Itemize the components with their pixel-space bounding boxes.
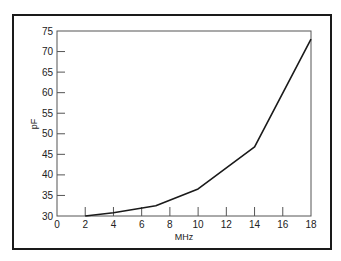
x-tick-label: 4 <box>111 219 117 230</box>
y-tick-label: 35 <box>42 190 54 201</box>
plot-area <box>57 31 311 216</box>
line-chart: 30354045505560657075 024681012141618 MHz… <box>0 0 341 261</box>
x-tick-label: 14 <box>249 219 261 230</box>
x-tick-label: 2 <box>82 219 88 230</box>
data-series <box>85 39 311 216</box>
y-tick-label: 60 <box>42 87 54 98</box>
y-axis: 30354045505560657075 <box>42 26 65 222</box>
y-tick-label: 40 <box>42 169 54 180</box>
y-tick-label: 30 <box>42 211 54 222</box>
x-tick-label: 16 <box>277 219 289 230</box>
x-axis: 024681012141618 <box>54 207 317 230</box>
y-tick-label: 45 <box>42 149 54 160</box>
x-axis-title: MHz <box>175 232 194 242</box>
x-tick-label: 0 <box>54 219 60 230</box>
x-tick-label: 12 <box>221 219 233 230</box>
y-tick-label: 75 <box>42 26 54 37</box>
y-axis-title: pF <box>29 118 39 129</box>
series-line <box>85 39 311 216</box>
y-tick-label: 70 <box>42 46 54 57</box>
y-tick-label: 55 <box>42 108 54 119</box>
x-tick-label: 18 <box>305 219 317 230</box>
x-tick-label: 10 <box>193 219 205 230</box>
y-tick-label: 65 <box>42 67 54 78</box>
x-tick-label: 8 <box>167 219 173 230</box>
x-tick-label: 6 <box>139 219 145 230</box>
y-tick-label: 50 <box>42 128 54 139</box>
plot-border <box>57 31 311 216</box>
